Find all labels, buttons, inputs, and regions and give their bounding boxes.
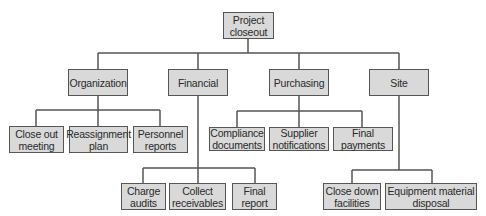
node-supplier-notifications: Supplier notifications bbox=[269, 127, 329, 151]
node-charge-audits: Charge audits bbox=[121, 183, 166, 210]
node-organization: Organization bbox=[68, 69, 128, 96]
node-personnel-reports: Personnel reports bbox=[133, 126, 188, 153]
node-equipment-material-disposal: Equipment material disposal bbox=[385, 183, 477, 210]
node-close-down-facilities: Close down facilities bbox=[323, 183, 381, 210]
node-final-report: Final report bbox=[232, 183, 277, 210]
node-close-out-meeting: Close out meeting bbox=[9, 126, 64, 153]
node-final-payments: Final payments bbox=[333, 127, 393, 151]
org-chart: Project closeout Organization Financial … bbox=[0, 0, 486, 216]
node-financial: Financial bbox=[168, 69, 228, 96]
node-purchasing: Purchasing bbox=[269, 69, 329, 96]
node-compliance-documents: Compliance documents bbox=[209, 127, 265, 151]
node-project-closeout: Project closeout bbox=[223, 12, 274, 39]
node-reassignment-plan: Reassignment plan bbox=[69, 126, 128, 153]
node-site: Site bbox=[369, 69, 429, 96]
node-collect-receivables: Collect receivables bbox=[169, 183, 226, 210]
